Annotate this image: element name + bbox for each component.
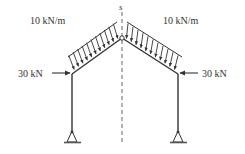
load-arrow-icon: [165, 49, 168, 63]
right-force-label: 30 kN: [202, 68, 227, 79]
load-arrow-icon: [131, 27, 133, 42]
section-label: s: [119, 2, 123, 12]
load-arrow-icon: [170, 52, 173, 66]
load-arrow-icon: [87, 43, 92, 57]
load-arrow-icon: [69, 55, 74, 69]
load-arrow-icon: [151, 40, 154, 55]
right-rafter: [122, 38, 178, 74]
left-rafter: [72, 38, 122, 74]
load-arrow-icon: [73, 52, 78, 66]
load-arrow-icon: [136, 30, 138, 45]
load-arrow-icon: [175, 55, 178, 69]
load-arrow-icon: [104, 30, 109, 45]
left-load-label: 10 kN/m: [30, 15, 66, 26]
load-arrow-icon: [91, 40, 96, 55]
load-arrow-icon: [141, 33, 143, 48]
right-pin-support-icon: [170, 131, 187, 143]
load-arrow-icon: [126, 24, 128, 39]
apex-hinge-icon: [120, 36, 124, 40]
frame-diagram: s 10 kN/m 10 kN/m 30 kN 30 kN: [0, 0, 245, 154]
left-pin-support-icon: [64, 131, 81, 143]
right-load-label: 10 kN/m: [163, 15, 199, 26]
load-arrow-icon: [100, 33, 105, 48]
load-arrow-icon: [155, 43, 158, 57]
load-arrow-icon: [78, 49, 83, 63]
load-arrow-icon: [95, 36, 100, 51]
load-arrow-icon: [160, 46, 163, 60]
left-force-label: 30 kN: [18, 68, 43, 79]
load-arrow-icon: [113, 24, 118, 39]
load-arrow-icon: [109, 27, 114, 42]
load-arrow-icon: [146, 36, 148, 51]
load-arrow-icon: [82, 46, 87, 60]
